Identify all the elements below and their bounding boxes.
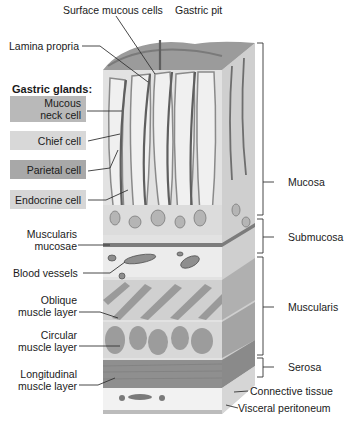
label-muscularis-mucosae-line2: mucosae [27,240,77,252]
label-oblique-line1: Oblique [18,294,77,306]
label-longitudinal-line2: muscle layer [18,380,77,392]
label-muscularis: Muscularis [288,301,338,313]
box-mucous-neck-cell: Mucous neck cell [10,96,86,122]
label-chief-cell: Chief cell [38,135,81,147]
label-longitudinal-line1: Longitudinal [18,368,77,380]
label-muscularis-mucosae-line1: Muscularis [27,228,77,240]
label-gastric-pit: Gastric pit [175,4,222,16]
label-endocrine-cell: Endocrine cell [15,194,81,206]
label-connective-tissue: Connective tissue [250,385,333,397]
label-muscularis-mucosae: Muscularis mucosae [27,228,77,252]
label-submucosa: Submucosa [288,231,343,243]
label-mucous-neck-line1: Mucous [44,97,81,109]
label-oblique-muscle-layer: Oblique muscle layer [18,294,77,318]
gastric-glands-heading: Gastric glands: [12,83,92,95]
label-circular-line2: muscle layer [18,341,77,353]
label-circular-line1: Circular [18,329,77,341]
label-lamina-propria: Lamina propria [9,40,79,52]
label-mucous-neck-line2: neck cell [40,109,81,121]
label-surface-mucous-cells: Surface mucous cells [63,4,163,16]
box-parietal-cell: Parietal cell [10,160,86,179]
label-oblique-line2: muscle layer [18,306,77,318]
label-serosa: Serosa [288,361,321,373]
box-endocrine-cell: Endocrine cell [10,190,86,209]
label-mucosa: Mucosa [288,176,325,188]
box-chief-cell: Chief cell [10,131,86,150]
label-parietal-cell: Parietal cell [27,164,81,176]
label-circular-muscle-layer: Circular muscle layer [18,329,77,353]
label-longitudinal-muscle-layer: Longitudinal muscle layer [18,368,77,392]
label-blood-vessels: Blood vessels [13,267,78,279]
label-visceral-peritoneum: Visceral peritoneum [238,402,331,414]
